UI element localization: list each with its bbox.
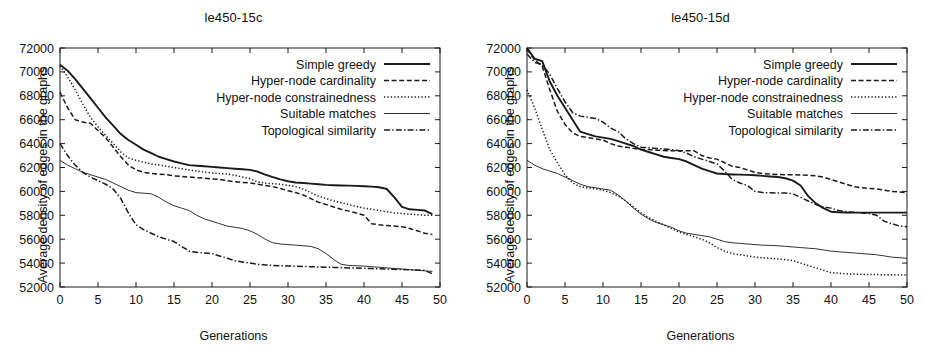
y-tick-label: 54000 <box>19 257 54 271</box>
y-tick-label: 70000 <box>19 65 54 79</box>
x-tick-label: 50 <box>900 293 914 307</box>
chart-panel-le450-15d: le450-15d Average density of edges in th… <box>467 0 934 349</box>
y-tick-label: 60000 <box>486 185 521 199</box>
x-axis-label-right: Generations <box>467 329 934 343</box>
series-line-suitable-matches <box>527 160 907 258</box>
x-tick-label: 0 <box>57 293 64 307</box>
chart-panel-le450-15c: le450-15c Average density of edges in th… <box>0 0 467 349</box>
legend-label-hyper-node-cardinality: Hyper-node cardinality <box>251 74 377 88</box>
x-tick-label: 45 <box>395 293 409 307</box>
series-line-hyper-node-constrainedness <box>527 90 907 275</box>
y-tick-label: 62000 <box>19 161 54 175</box>
y-tick-label: 66000 <box>19 113 54 127</box>
series-line-suitable-matches <box>60 160 432 271</box>
x-tick-label: 10 <box>129 293 143 307</box>
x-tick-label: 30 <box>748 293 762 307</box>
plot-area-left: 5200054000560005800060000620006400066000… <box>0 0 467 349</box>
x-tick-label: 25 <box>243 293 257 307</box>
y-tick-label: 72000 <box>19 42 54 56</box>
y-tick-label: 52000 <box>19 281 54 295</box>
y-tick-label: 60000 <box>19 185 54 199</box>
legend-label-suitable-matches: Suitable matches <box>747 107 843 121</box>
x-tick-label: 5 <box>95 293 102 307</box>
y-tick-label: 56000 <box>19 233 54 247</box>
plot-area-right: 5200054000560005800060000620006400066000… <box>467 0 934 349</box>
y-tick-label: 66000 <box>486 113 521 127</box>
x-tick-label: 30 <box>281 293 295 307</box>
y-tick-label: 58000 <box>19 209 54 223</box>
x-tick-label: 5 <box>562 293 569 307</box>
x-tick-label: 20 <box>205 293 219 307</box>
x-tick-label: 45 <box>862 293 876 307</box>
x-tick-label: 0 <box>524 293 531 307</box>
series-line-simple-greedy <box>527 48 907 213</box>
legend-label-suitable-matches: Suitable matches <box>280 107 376 121</box>
y-tick-label: 72000 <box>486 42 521 56</box>
x-tick-label: 25 <box>710 293 724 307</box>
y-tick-label: 58000 <box>486 209 521 223</box>
y-tick-label: 52000 <box>486 281 521 295</box>
x-tick-label: 10 <box>596 293 610 307</box>
x-tick-label: 20 <box>672 293 686 307</box>
x-tick-label: 40 <box>824 293 838 307</box>
figure-root: le450-15c Average density of edges in th… <box>0 0 934 349</box>
legend-label-simple-greedy: Simple greedy <box>763 58 844 72</box>
y-tick-label: 70000 <box>486 65 521 79</box>
y-tick-label: 56000 <box>486 233 521 247</box>
y-tick-label: 54000 <box>486 257 521 271</box>
series-line-hyper-node-cardinality <box>527 49 907 192</box>
y-tick-label: 62000 <box>486 161 521 175</box>
y-tick-label: 68000 <box>486 89 521 103</box>
x-tick-label: 50 <box>433 293 447 307</box>
x-tick-label: 35 <box>786 293 800 307</box>
legend-label-topological-similarity: Topological similarity <box>728 124 843 138</box>
y-tick-label: 64000 <box>486 137 521 151</box>
x-axis-label-left: Generations <box>0 329 467 343</box>
x-tick-label: 40 <box>357 293 371 307</box>
x-tick-label: 15 <box>634 293 648 307</box>
series-line-hyper-node-cardinality <box>60 92 432 234</box>
y-tick-label: 68000 <box>19 89 54 103</box>
legend-label-hyper-node-constrainedness: Hyper-node constrainedness <box>216 91 376 105</box>
legend-label-simple-greedy: Simple greedy <box>296 58 377 72</box>
legend-label-hyper-node-cardinality: Hyper-node cardinality <box>718 74 844 88</box>
y-tick-label: 64000 <box>19 137 54 151</box>
x-tick-label: 35 <box>319 293 333 307</box>
legend-label-topological-similarity: Topological similarity <box>261 124 376 138</box>
series-line-topological-similarity <box>60 144 432 274</box>
x-tick-label: 15 <box>167 293 181 307</box>
legend-label-hyper-node-constrainedness: Hyper-node constrainedness <box>683 91 843 105</box>
